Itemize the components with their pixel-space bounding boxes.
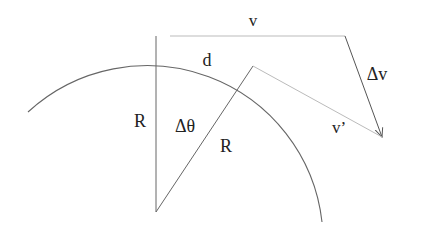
velocity-v-prime-line [253,66,382,137]
label-d: d [203,50,212,70]
circle-arc [28,66,322,222]
label-delta-v: Δv [367,64,388,84]
diagram-canvas: v d Δv v’ R Δθ R [0,0,422,229]
label-v-prime: v’ [332,118,346,137]
label-delta-theta: Δθ [175,116,195,136]
label-R-left: R [134,111,146,131]
delta-v-vector [345,36,382,137]
label-v: v [249,11,258,30]
label-R-right: R [220,136,232,156]
radius-slanted [156,66,253,212]
